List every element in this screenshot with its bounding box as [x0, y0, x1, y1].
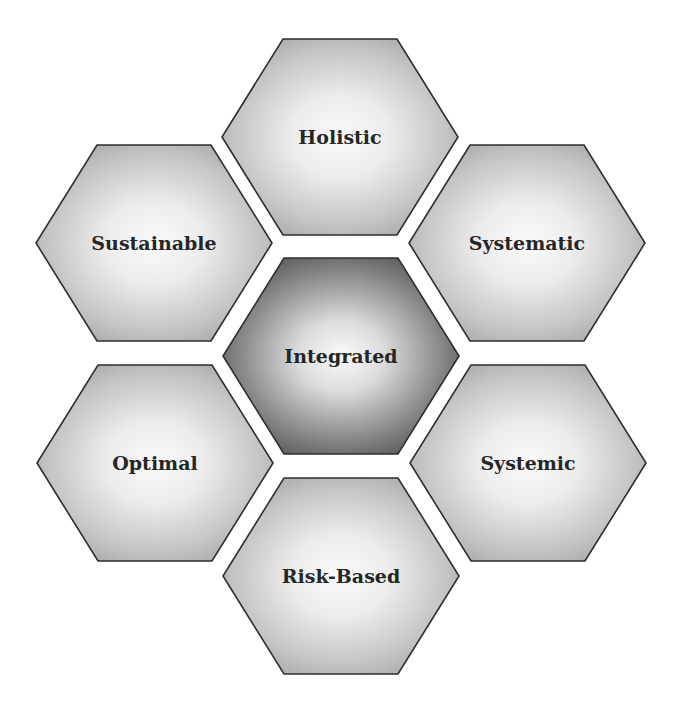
hexagon-diagram: HolisticSustainableSystematicOptimalSyst… [0, 0, 681, 712]
hex-label-holistic: Holistic [298, 126, 381, 148]
hex-label-risk-based: Risk-Based [282, 565, 400, 587]
hex-label-systemic: Systemic [480, 452, 575, 474]
hex-label-optimal: Optimal [112, 452, 197, 474]
hex-label-systematic: Systematic [469, 232, 585, 254]
hex-label-integrated: Integrated [284, 345, 397, 367]
hex-label-sustainable: Sustainable [91, 232, 216, 254]
